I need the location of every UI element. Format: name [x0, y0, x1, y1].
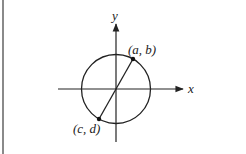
point-a-b-label: (a, b) — [128, 42, 156, 57]
x-axis-label: x — [187, 81, 194, 96]
point-c-d-label: (c, d) — [73, 121, 100, 136]
coordinate-diagram: x y (a, b) (c, d) — [0, 0, 246, 154]
y-axis-label: y — [110, 8, 118, 23]
point-a-b — [131, 57, 135, 61]
